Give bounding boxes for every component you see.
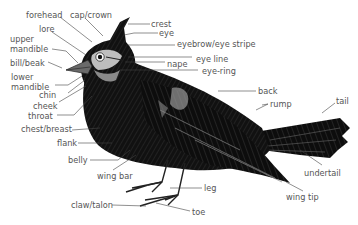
label-chest-breast: chest/breast bbox=[21, 125, 72, 133]
label-leg: leg bbox=[204, 184, 217, 192]
label-tail: tail bbox=[336, 97, 349, 105]
label-wing-bar: wing bar bbox=[97, 172, 133, 180]
label-cap-crown: cap/crown bbox=[70, 11, 112, 19]
label-forehead: forehead bbox=[26, 11, 63, 19]
label-upper-mandible-1: upper bbox=[10, 35, 34, 43]
label-cheek: cheek bbox=[33, 102, 58, 110]
label-nape: nape bbox=[167, 60, 187, 68]
label-lore: lore bbox=[39, 25, 55, 33]
label-bill-beak: bill/beak bbox=[10, 59, 45, 67]
label-toe: toe bbox=[192, 208, 205, 216]
label-back: back bbox=[258, 87, 277, 95]
label-eye-ring: eye-ring bbox=[202, 67, 236, 75]
label-wing-tip: wing tip bbox=[286, 193, 319, 201]
label-throat: throat bbox=[28, 112, 53, 120]
label-eye-line: eye line bbox=[196, 55, 228, 63]
label-belly: belly bbox=[68, 156, 88, 164]
label-claw-talon: claw/talon bbox=[71, 201, 113, 209]
label-upper-mandible-2: mandible bbox=[10, 45, 48, 53]
label-eye: eye bbox=[159, 29, 174, 37]
label-chin: chin bbox=[39, 91, 56, 99]
label-crest: crest bbox=[151, 20, 171, 28]
label-undertail: undertail bbox=[304, 169, 341, 177]
label-rump: rump bbox=[270, 100, 292, 108]
label-flank: flank bbox=[57, 139, 77, 147]
bird-head bbox=[66, 17, 135, 92]
label-lower-mandible-1: lower bbox=[11, 73, 33, 81]
label-eyebrow-eye-stripe: eyebrow/eye stripe bbox=[177, 40, 256, 48]
